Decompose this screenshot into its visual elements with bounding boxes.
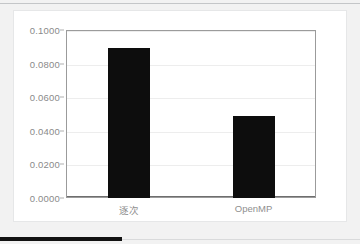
y-axis-tick-mark — [60, 164, 64, 165]
y-axis-tick-label: 0.0600 — [30, 92, 60, 103]
x-axis-line — [67, 196, 315, 197]
y-axis-tick-mark — [60, 130, 64, 131]
y-axis-tick-label: 0.1000 — [30, 25, 60, 36]
y-axis-tick-mark — [60, 198, 64, 199]
page-bottom-rule-dark — [0, 237, 122, 241]
plot-area — [66, 30, 316, 198]
y-axis-tick-mark — [60, 63, 64, 64]
gridline — [67, 98, 315, 99]
x-axis-tick-label: 逐次 — [66, 203, 191, 217]
y-axis-tick-mark — [60, 97, 64, 98]
y-axis-tick-label: 0.0000 — [30, 193, 60, 204]
y-axis-tick-mark — [60, 30, 64, 31]
gridline — [67, 31, 315, 32]
gridline — [67, 65, 315, 66]
y-axis-tick-label: 0.0800 — [30, 58, 60, 69]
gridline — [67, 132, 315, 133]
y-axis-tick-label: 0.0400 — [30, 125, 60, 136]
y-axis-tick-label: 0.0200 — [30, 159, 60, 170]
chart-screenshot: { "chart_data": { "type": "bar", "title"… — [0, 0, 360, 244]
page-top-rule — [0, 3, 360, 4]
gridline — [67, 165, 315, 166]
y-axis-tick-labels: 0.00000.02000.04000.06000.08000.1000 — [14, 30, 60, 198]
x-axis-tick-label: OpenMP — [191, 203, 316, 214]
